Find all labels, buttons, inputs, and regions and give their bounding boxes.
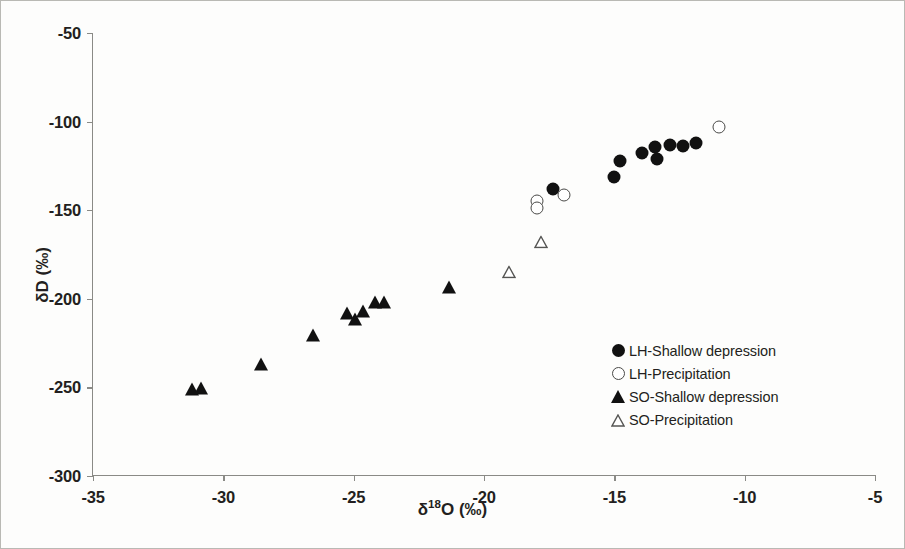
x-tick-label: -20 [472, 488, 495, 507]
data-point-filled-triangle [377, 296, 391, 309]
x-tick-mark [875, 475, 876, 481]
y-tick-mark [87, 299, 93, 300]
y-tick-label: -250 [49, 378, 81, 397]
chart-legend: LH-Shallow depressionLH-PrecipitationSO-… [609, 339, 839, 431]
x-tick-label: -25 [342, 488, 365, 507]
legend-marker-filled-circle [609, 344, 627, 357]
x-tick-mark [93, 475, 94, 481]
y-tick-mark [87, 387, 93, 388]
data-point-open-circle [557, 189, 570, 202]
y-tick-mark [87, 33, 93, 34]
x-axis-title: δ18O (‰) [1, 498, 904, 520]
x-tick-label: -15 [603, 488, 626, 507]
y-tick-label: -150 [49, 201, 81, 220]
y-tick-label: -200 [49, 289, 81, 308]
legend-item: LH-Precipitation [609, 362, 839, 385]
x-tick-mark [745, 475, 746, 481]
legend-label: SO-Precipitation [629, 412, 733, 428]
legend-label: SO-Shallow depression [629, 389, 778, 405]
x-tick-label: -35 [81, 488, 104, 507]
legend-marker-filled-triangle [609, 390, 627, 403]
legend-marker-open-circle [609, 367, 627, 380]
x-tick-label: -5 [868, 488, 882, 507]
x-tick-mark [484, 475, 485, 481]
data-point-open-circle [712, 120, 725, 133]
data-point-open-triangle [534, 235, 548, 248]
data-point-filled-circle [690, 136, 703, 149]
data-point-filled-triangle [442, 281, 456, 294]
x-tick-mark [354, 475, 355, 481]
x-tick-label: -10 [733, 488, 756, 507]
data-point-open-triangle [502, 265, 516, 278]
data-point-filled-circle [608, 170, 621, 183]
data-point-filled-triangle [254, 358, 268, 371]
x-tick-mark [223, 475, 224, 481]
legend-marker-open-triangle [609, 413, 627, 426]
x-axis-title-delta: δ [418, 500, 428, 519]
data-point-filled-circle [664, 138, 677, 151]
y-tick-label: -50 [58, 24, 81, 43]
legend-item: LH-Shallow depression [609, 339, 839, 362]
x-tick-label: -30 [212, 488, 235, 507]
data-point-filled-circle [677, 139, 690, 152]
y-tick-label: -300 [49, 467, 81, 486]
x-axis-title-superscript: 18 [428, 498, 441, 510]
y-axis-line [92, 33, 93, 476]
scatter-plot-figure: δD (‰) δ18O (‰) -50-100-150-200-250-300 … [0, 0, 905, 549]
legend-item: SO-Precipitation [609, 408, 839, 431]
data-point-filled-triangle [194, 382, 208, 395]
y-tick-label: -100 [49, 112, 81, 131]
y-tick-mark [87, 122, 93, 123]
data-point-filled-circle [651, 152, 664, 165]
data-point-open-circle [531, 201, 544, 214]
legend-item: SO-Shallow depression [609, 385, 839, 408]
legend-label: LH-Shallow depression [629, 343, 776, 359]
data-point-filled-circle [635, 146, 648, 159]
x-tick-mark [614, 475, 615, 481]
data-point-filled-circle [613, 155, 626, 168]
y-tick-mark [87, 210, 93, 211]
data-point-filled-triangle [306, 329, 320, 342]
legend-label: LH-Precipitation [629, 366, 731, 382]
